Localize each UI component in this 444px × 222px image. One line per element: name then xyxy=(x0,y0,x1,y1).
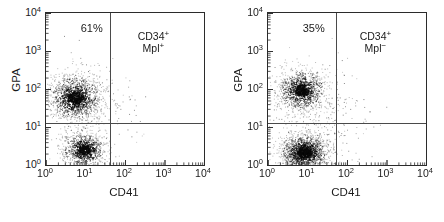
y-tick-label: 101 xyxy=(25,120,41,132)
x-axis-tick-labels-right: 100 101 102 103 104 xyxy=(267,167,425,183)
quadrant-divider-vertical-right xyxy=(336,13,337,165)
plot-area-left: 61% CD34+ Mpl+ xyxy=(45,12,205,166)
y-axis-title-left: GPA xyxy=(10,45,22,115)
quadrant-label-line1: CD34+ xyxy=(360,30,392,42)
scatter-panel-left: 104 103 102 101 100 GPA 61% CD34+ Mpl+ 1… xyxy=(0,0,222,222)
plot-area-right: 35% CD34+ Mpl− xyxy=(267,12,427,166)
percentage-label-left: 61% xyxy=(81,22,103,34)
x-tick-label: 101 xyxy=(77,167,93,179)
scatter-points-left xyxy=(46,13,204,165)
quadrant-divider-horizontal-left xyxy=(46,123,204,124)
y-tick-label: 104 xyxy=(247,6,263,18)
x-tick-label: 103 xyxy=(378,167,394,179)
scatter-panel-right: 104 103 102 101 100 GPA 35% CD34+ Mpl− 1… xyxy=(222,0,444,222)
quadrant-label-line2: Mpl+ xyxy=(143,42,165,54)
flow-cytometry-figure: 104 103 102 101 100 GPA 61% CD34+ Mpl+ 1… xyxy=(0,0,444,222)
quadrant-label-line1: CD34+ xyxy=(138,30,170,42)
quadrant-label-left: CD34+ Mpl+ xyxy=(138,30,170,54)
x-axis-tick-labels-left: 100 101 102 103 104 xyxy=(45,167,203,183)
y-tick-label: 104 xyxy=(25,6,41,18)
x-tick-label: 100 xyxy=(259,167,275,179)
quadrant-divider-horizontal-right xyxy=(268,123,426,124)
x-tick-label: 104 xyxy=(195,167,211,179)
y-tick-label: 103 xyxy=(247,44,263,56)
scatter-points-right xyxy=(268,13,426,165)
x-tick-label: 103 xyxy=(156,167,172,179)
quadrant-divider-vertical-left xyxy=(110,13,111,165)
y-axis-title-right: GPA xyxy=(232,45,244,115)
quadrant-label-line2: Mpl− xyxy=(365,42,387,54)
x-tick-label: 100 xyxy=(37,167,53,179)
x-axis-title-left: CD41 xyxy=(45,186,203,198)
percentage-label-right: 35% xyxy=(303,22,325,34)
x-tick-label: 102 xyxy=(338,167,354,179)
y-tick-label: 102 xyxy=(247,82,263,94)
x-tick-label: 104 xyxy=(417,167,433,179)
y-tick-label: 103 xyxy=(25,44,41,56)
x-axis-title-right: CD41 xyxy=(267,186,425,198)
y-tick-label: 101 xyxy=(247,120,263,132)
quadrant-label-right: CD34+ Mpl− xyxy=(360,30,392,54)
x-tick-label: 101 xyxy=(299,167,315,179)
y-tick-label: 102 xyxy=(25,82,41,94)
x-tick-label: 102 xyxy=(116,167,132,179)
